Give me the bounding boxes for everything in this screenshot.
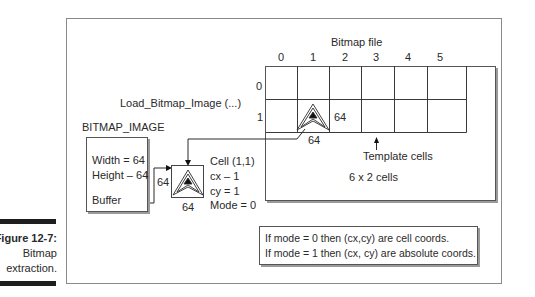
column-label-2: 2 xyxy=(342,51,348,64)
bitmap-height-field: Height – 64 xyxy=(92,169,148,182)
mode-note-line-1: If mode = 0 then (cx,cy) are cell coords… xyxy=(265,232,449,245)
bitmap-buffer-field: Buffer xyxy=(92,194,121,207)
cell-param-cy: cy = 1 xyxy=(210,185,240,198)
grid-cell-height-label: 64 xyxy=(334,111,346,124)
template-sprite-icon xyxy=(297,104,329,130)
extracted-cell-height-label: 64 xyxy=(157,176,169,189)
bitmap-image-title: BITMAP_IMAGE xyxy=(82,121,165,134)
column-label-5: 5 xyxy=(437,51,443,64)
row-label-1: 1 xyxy=(257,111,263,124)
function-call-label: Load_Bitmap_Image (...) xyxy=(120,97,241,110)
bitmap-file-title: Bitmap file xyxy=(331,36,382,49)
column-label-1: 1 xyxy=(310,51,316,64)
cell-param-mode: Mode = 0 xyxy=(210,199,256,212)
column-label-3: 3 xyxy=(373,51,379,64)
grid-cell-width-label: 64 xyxy=(308,134,320,147)
mode-note-line-2: If mode = 1 then (cx, cy) are absolute c… xyxy=(265,247,476,260)
extracted-cell-width-label: 64 xyxy=(182,201,194,214)
grid-size-label: 6 x 2 cells xyxy=(349,171,398,184)
cell-param-cx: cx – 1 xyxy=(210,170,239,183)
extracted-cell-box xyxy=(171,165,204,198)
bitmap-width-field: Width = 64 xyxy=(92,154,145,167)
row-label-0: 0 xyxy=(256,80,262,93)
extracted-sprite-icon xyxy=(172,166,205,199)
cell-param-cell: Cell (1,1) xyxy=(210,155,255,168)
column-label-4: 4 xyxy=(405,51,411,64)
column-label-0: 0 xyxy=(278,51,284,64)
template-cells-label: Template cells xyxy=(363,150,433,163)
